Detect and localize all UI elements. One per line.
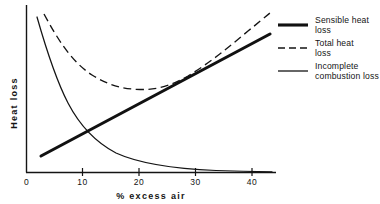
x-axis-tick-labels: 0 10 20 30 40 [24,177,257,187]
legend-label-total-line1: Total heat [315,38,354,48]
heat-loss-chart: 0 10 20 30 40 % excess air Heat loss Sen… [0,0,380,204]
legend-item-incomplete[interactable]: Incomplete combustion loss [278,61,379,81]
legend-label-sensible-line2: loss [315,25,331,35]
x-tick-label-20: 20 [134,177,144,187]
x-tick-label-40: 40 [247,177,257,187]
x-tick-label-30: 30 [190,177,200,187]
legend-item-total[interactable]: Total heat loss [278,38,354,58]
x-tick-label-10: 10 [77,177,87,187]
figure-container: 0 10 20 30 40 % excess air Heat loss Sen… [0,0,380,204]
data-curves [37,13,272,172]
legend: Sensible heat loss Total heat loss Incom… [278,15,379,81]
legend-item-sensible[interactable]: Sensible heat loss [278,15,369,35]
legend-label-incomplete-line1: Incomplete [315,61,359,71]
x-tick-label-0: 0 [24,177,29,187]
legend-label-incomplete-line2: combustion loss [315,71,379,81]
x-axis-title: % excess air [116,191,186,201]
legend-label-total-line2: loss [315,48,331,58]
legend-label-sensible-line1: Sensible heat [315,15,369,25]
curve-sensible-heat-loss [41,34,270,156]
y-axis-title: Heat loss [9,77,19,129]
